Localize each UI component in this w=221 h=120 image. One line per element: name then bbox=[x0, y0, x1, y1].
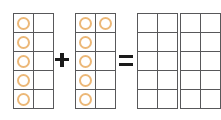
ten-frame-cell[interactable] bbox=[34, 14, 54, 33]
ten-frame-cell[interactable] bbox=[34, 71, 54, 90]
ten-frame-cell[interactable] bbox=[201, 52, 221, 71]
ten-frame-cell[interactable] bbox=[14, 90, 34, 109]
ten-frame-cell[interactable] bbox=[76, 52, 96, 71]
ten-frame-addend-2[interactable] bbox=[75, 13, 116, 109]
ten-frame-cell[interactable] bbox=[201, 71, 221, 90]
ten-frame-cell[interactable] bbox=[158, 90, 178, 109]
ten-frame-cell[interactable] bbox=[201, 33, 221, 52]
ten-frame-cell[interactable] bbox=[14, 52, 34, 71]
counter-icon bbox=[17, 74, 30, 87]
ten-frame-cell[interactable] bbox=[181, 71, 201, 90]
plus-operator-icon: + bbox=[55, 50, 69, 72]
ten-frame-cell[interactable] bbox=[138, 33, 158, 52]
ten-frame-cell[interactable] bbox=[76, 71, 96, 90]
ten-frame-cell[interactable] bbox=[14, 14, 34, 33]
ten-frame-cell[interactable] bbox=[76, 33, 96, 52]
counter-icon bbox=[99, 17, 112, 30]
ten-frame-cell[interactable] bbox=[96, 52, 116, 71]
ten-frame-cell[interactable] bbox=[34, 52, 54, 71]
equals-top-bar bbox=[119, 55, 133, 58]
equals-operator-label: = bbox=[119, 50, 120, 51]
ten-frame-cell[interactable] bbox=[201, 14, 221, 33]
ten-frame-cell[interactable] bbox=[76, 14, 96, 33]
ten-frame-cell[interactable] bbox=[138, 14, 158, 33]
ten-frame-cell[interactable] bbox=[181, 52, 201, 71]
plus-vertical-bar bbox=[60, 53, 63, 67]
ten-frame-answer-2[interactable] bbox=[180, 13, 221, 109]
counter-icon bbox=[79, 93, 92, 106]
equals-bottom-bar bbox=[119, 63, 133, 66]
counter-icon bbox=[17, 55, 30, 68]
ten-frame-addition-worksheet: + = bbox=[0, 0, 221, 120]
ten-frame-cell[interactable] bbox=[14, 33, 34, 52]
counter-icon bbox=[79, 36, 92, 49]
ten-frame-cell[interactable] bbox=[201, 90, 221, 109]
ten-frame-addend-1[interactable] bbox=[13, 13, 54, 109]
ten-frame-cell[interactable] bbox=[34, 33, 54, 52]
counter-icon bbox=[79, 17, 92, 30]
ten-frame-cell[interactable] bbox=[138, 71, 158, 90]
ten-frame-cell[interactable] bbox=[14, 71, 34, 90]
plus-operator-label: + bbox=[55, 50, 56, 51]
counter-icon bbox=[17, 93, 30, 106]
ten-frame-cell[interactable] bbox=[181, 33, 201, 52]
ten-frame-cell[interactable] bbox=[181, 90, 201, 109]
ten-frame-cell[interactable] bbox=[96, 14, 116, 33]
ten-frame-cell[interactable] bbox=[158, 71, 178, 90]
ten-frame-cell[interactable] bbox=[181, 14, 201, 33]
counter-icon bbox=[79, 55, 92, 68]
ten-frame-cell[interactable] bbox=[96, 33, 116, 52]
ten-frame-cell[interactable] bbox=[158, 14, 178, 33]
counter-icon bbox=[17, 36, 30, 49]
ten-frame-cell[interactable] bbox=[96, 71, 116, 90]
ten-frame-cell[interactable] bbox=[34, 90, 54, 109]
ten-frame-answer-1[interactable] bbox=[137, 13, 178, 109]
ten-frame-cell[interactable] bbox=[138, 90, 158, 109]
counter-icon bbox=[17, 17, 30, 30]
ten-frame-cell[interactable] bbox=[96, 90, 116, 109]
ten-frame-cell[interactable] bbox=[158, 52, 178, 71]
equals-operator-icon: = bbox=[119, 50, 133, 72]
ten-frame-cell[interactable] bbox=[76, 90, 96, 109]
ten-frame-cell[interactable] bbox=[138, 52, 158, 71]
ten-frame-cell[interactable] bbox=[158, 33, 178, 52]
counter-icon bbox=[79, 74, 92, 87]
